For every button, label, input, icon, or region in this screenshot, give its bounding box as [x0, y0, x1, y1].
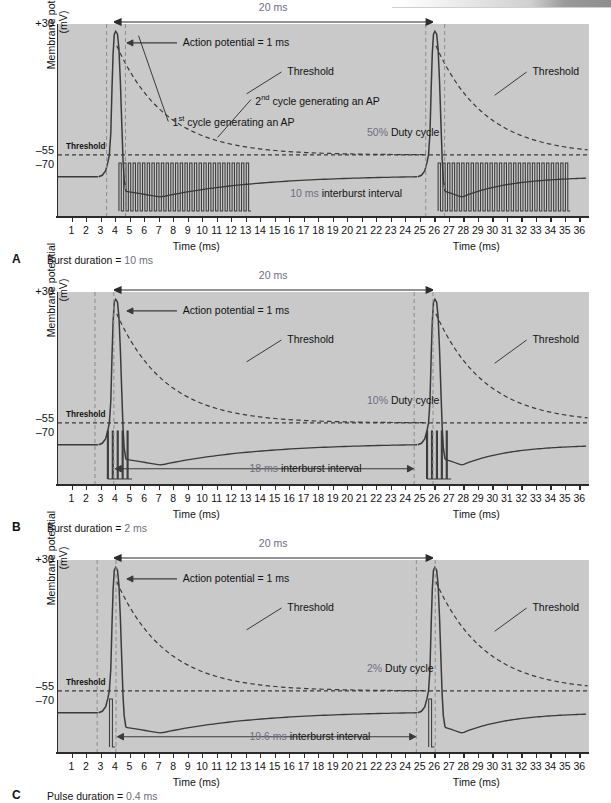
x-tick: [144, 484, 145, 490]
x-tick-label: 23: [385, 224, 397, 236]
x-tick-label: 4: [112, 492, 118, 504]
x-tick: [492, 484, 493, 490]
x-tick: [173, 484, 174, 490]
x-tick-label: 23: [385, 492, 397, 504]
x-tick-label: 20: [341, 224, 353, 236]
x-tick-label: 22: [370, 224, 382, 236]
panel-letter-a: A: [12, 252, 21, 266]
x-tick-label: 3: [98, 224, 104, 236]
threshold-decay-curve-1: [117, 314, 427, 423]
threshold-decay-curve-2: [436, 314, 588, 418]
x-tick: [304, 216, 305, 222]
x-tick: [376, 484, 377, 490]
x-tick-label: 28: [457, 760, 469, 772]
x-tick-label: 1: [69, 492, 75, 504]
x-tick: [565, 484, 566, 490]
x-tick: [434, 216, 435, 222]
x-tick-label: 31: [501, 492, 513, 504]
threshold-leader-left: [247, 340, 282, 362]
x-tick: [362, 752, 363, 758]
x-tick-label: 17: [298, 760, 310, 772]
x-tick: [536, 216, 537, 222]
x-tick-label: 24: [399, 492, 411, 504]
x-tick: [347, 216, 348, 222]
x-tick: [405, 752, 406, 758]
x-tick-label: 11: [211, 492, 222, 504]
ap-callout-arrowhead: [127, 308, 133, 314]
x-tick-label: 30: [486, 492, 498, 504]
x-tick: [231, 484, 232, 490]
threshold-label-right: Threshold: [532, 333, 579, 345]
x-tick: [144, 752, 145, 758]
action-potential-label: Action potential = 1 ms: [183, 572, 290, 584]
x-tick: [579, 216, 580, 222]
threshold-decay-curve-2: [436, 582, 588, 686]
x-tick-label: 35: [559, 760, 571, 772]
threshold-leader-right: [495, 340, 527, 363]
x-tick: [507, 752, 508, 758]
stimulus-burst-2: [429, 699, 435, 747]
x-tick: [275, 752, 276, 758]
x-tick: [420, 484, 421, 490]
threshold-leader-right: [495, 608, 527, 631]
threshold-label-left: Threshold: [287, 65, 334, 77]
x-tick-label: 26: [428, 492, 440, 504]
x-tick-label: 2: [83, 224, 89, 236]
x-tick: [565, 752, 566, 758]
x-tick-label: 29: [472, 492, 484, 504]
y-tick-minus55: –55: [36, 144, 54, 156]
x-tick-label: 29: [472, 224, 484, 236]
x-tick: [420, 216, 421, 222]
x-tick: [260, 752, 261, 758]
x-tick-label: 8: [170, 224, 176, 236]
x-tick: [521, 752, 522, 758]
figure-panel-b: Membrane potential (mV)+30–55–70Threshol…: [0, 268, 611, 536]
x-tick-label: 8: [170, 492, 176, 504]
x-tick-label: 35: [559, 492, 571, 504]
action-potential-label: Action potential = 1 ms: [183, 304, 290, 316]
x-tick: [463, 216, 464, 222]
x-tick-label: 2: [83, 760, 89, 772]
plot-area-b: Membrane potential (mV)+30–55–70Threshol…: [57, 292, 589, 484]
x-tick-label: 25: [414, 224, 426, 236]
x-tick-label: 9: [185, 760, 191, 772]
x-tick: [231, 216, 232, 222]
x-tick: [72, 216, 73, 222]
x-tick-label: 19: [327, 492, 339, 504]
x-tick: [521, 484, 522, 490]
x-tick: [101, 752, 102, 758]
x-tick: [376, 216, 377, 222]
x-tick-label: 7: [156, 492, 162, 504]
x-tick: [86, 752, 87, 758]
x-tick-label: 3: [98, 492, 104, 504]
x-tick-label: 27: [443, 492, 455, 504]
x-tick-label: 4: [112, 224, 118, 236]
x-tick: [86, 216, 87, 222]
x-tick: [188, 484, 189, 490]
interburst-interval-label: 19.6 ms interburst interval: [250, 730, 371, 742]
duty-cycle-label: 10% Duty cycle: [367, 394, 439, 406]
period-span-arrow: 20 ms: [114, 550, 433, 566]
threshold-leader-left: [247, 608, 282, 630]
x-axis-title-left: Time (ms): [173, 240, 220, 252]
stimulus-burst-2: [438, 163, 570, 211]
x-tick: [550, 752, 551, 758]
x-tick-label: 35: [559, 224, 571, 236]
x-tick-label: 21: [356, 760, 368, 772]
x-tick-label: 34: [544, 224, 556, 236]
x-tick: [217, 752, 218, 758]
x-tick: [478, 216, 479, 222]
x-tick: [565, 216, 566, 222]
period-arrow-path: [114, 555, 433, 561]
x-tick: [173, 752, 174, 758]
x-tick: [289, 216, 290, 222]
x-tick-label: 1: [69, 760, 75, 772]
x-tick: [362, 484, 363, 490]
ap-callout-arrowhead: [127, 576, 133, 582]
x-tick-label: 7: [156, 760, 162, 772]
x-axis-tick-labels: 1234567891011121314151617181920212223242…: [57, 224, 590, 238]
x-tick: [391, 484, 392, 490]
x-tick-label: 11: [211, 760, 222, 772]
interburst-envelope-2: [445, 714, 586, 733]
threshold-inplot-label: Threshold: [66, 410, 106, 419]
